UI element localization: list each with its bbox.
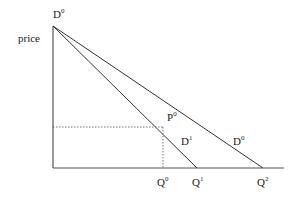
curve-label-d1: D1 [181, 136, 192, 147]
demand-curve-d1 [53, 26, 197, 168]
demand-curve-d0 [53, 26, 263, 168]
demand-diagram [0, 0, 300, 204]
y-axis-label: price [18, 33, 40, 44]
top-label-d0: D0 [53, 9, 64, 20]
x-label-q1: Q1 [192, 177, 203, 188]
price-point-label: P0 [167, 112, 177, 123]
curve-label-d0: D0 [233, 136, 244, 147]
x-label-q0: Q0 [157, 177, 168, 188]
x-label-q2: Q2 [257, 177, 268, 188]
